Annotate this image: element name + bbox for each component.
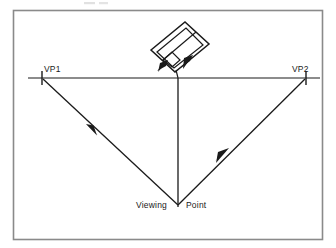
viewing-point-label-left: Viewing <box>136 200 167 210</box>
arrow-to-vp2-midspan <box>214 148 229 163</box>
arrow-box-lower-right <box>181 55 193 69</box>
perspective-diagram-figure: VP1 VP2 Viewing Point <box>0 0 336 248</box>
arrow-to-vp1-midspan <box>86 124 98 136</box>
diagram-frame <box>14 11 323 240</box>
vp1-label: VP1 <box>44 64 61 74</box>
vp2-label: VP2 <box>292 64 309 74</box>
sight-line-to-vp2 <box>178 79 305 205</box>
scan-artifact-group <box>84 2 190 30</box>
diagram-canvas: VP1 VP2 Viewing Point <box>0 0 336 248</box>
sight-line-to-vp1 <box>43 79 178 205</box>
arrow-box-lower-left <box>157 60 168 72</box>
viewing-point-label-right: Point <box>186 200 207 210</box>
